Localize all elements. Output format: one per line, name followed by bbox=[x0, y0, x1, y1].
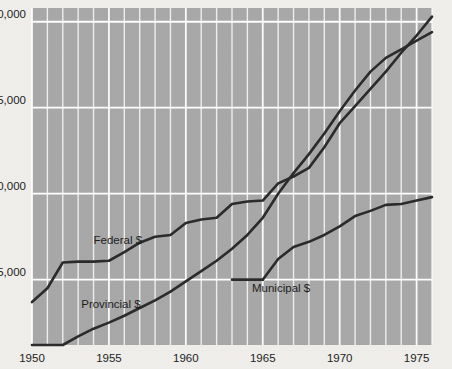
line-chart: $5,000$10,000$15,000$20,000 195019551960… bbox=[0, 0, 452, 369]
x-tick-label-1975: 1975 bbox=[404, 352, 430, 364]
chart-container: $5,000$10,000$15,000$20,000 195019551960… bbox=[0, 0, 452, 369]
series-label-provincial: Provincial $ bbox=[81, 298, 141, 310]
x-tick-label-1960: 1960 bbox=[173, 352, 199, 364]
series-label-municipal: Municipal $ bbox=[252, 282, 311, 294]
y-tick-label-15000: $15,000 bbox=[0, 94, 26, 106]
y-tick-label-20000: $20,000 bbox=[0, 8, 26, 20]
y-tick-label-5000: $5,000 bbox=[0, 266, 26, 278]
y-tick-label-10000: $10,000 bbox=[0, 180, 26, 192]
x-tick-label-1950: 1950 bbox=[19, 352, 45, 364]
x-tick-label-1955: 1955 bbox=[96, 352, 122, 364]
x-tick-label-1965: 1965 bbox=[250, 352, 276, 364]
series-label-federal: Federal $ bbox=[94, 234, 143, 246]
x-tick-label-1970: 1970 bbox=[327, 352, 353, 364]
